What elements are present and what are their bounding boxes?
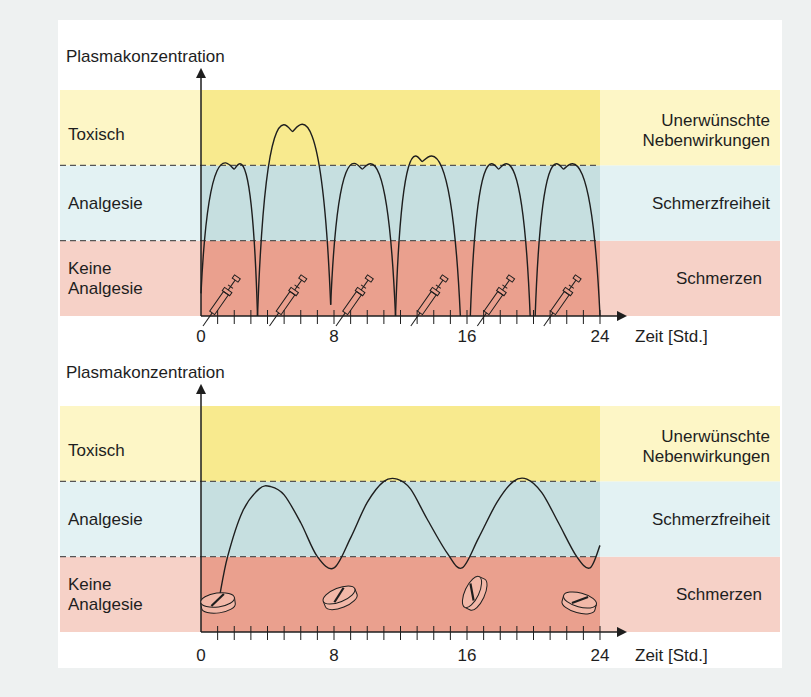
x-tick-label: 8 [329, 646, 338, 665]
zone-label-no-analgesia-1: Keine [68, 575, 111, 594]
x-tick-label: 0 [196, 646, 205, 665]
zone-label-side-effects-2: Nebenwirkungen [642, 131, 770, 150]
zone-label-toxic: Toxisch [68, 125, 125, 144]
zone-label-side-effects-2: Nebenwirkungen [642, 447, 770, 466]
x-tick-label: 0 [196, 327, 205, 346]
band-toxic-plot [201, 90, 600, 165]
zone-label-no-analgesia-2: Analgesie [68, 595, 143, 614]
zone-label-analgesia: Analgesie [68, 194, 143, 213]
panel-oral: ToxischAnalgesieKeineAnalgesieUnerwünsch… [60, 363, 780, 665]
band-toxic-plot [201, 406, 600, 481]
x-tick-label: 8 [329, 327, 338, 346]
zone-label-pain-free: Schmerzfreiheit [652, 194, 770, 213]
zone-label-no-analgesia-1: Keine [68, 259, 111, 278]
band-pain-plot [201, 557, 600, 632]
zone-label-no-analgesia-2: Analgesie [68, 279, 143, 298]
y-axis-label: Plasmakonzentration [66, 47, 225, 66]
figure-svg: ToxischAnalgesieKeineAnalgesieUnerwünsch… [0, 0, 811, 697]
zone-label-side-effects-1: Unerwünschte [661, 111, 770, 130]
y-axis-label: Plasmakonzentration [66, 363, 225, 382]
zone-label-pain-free: Schmerzfreiheit [652, 510, 770, 529]
zone-label-pain: Schmerzen [676, 269, 762, 288]
x-tick-label: 24 [591, 646, 610, 665]
x-tick-label: 16 [458, 646, 477, 665]
x-tick-label: 16 [458, 327, 477, 346]
zone-label-analgesia: Analgesie [68, 510, 143, 529]
x-axis-label: Zeit [Std.] [635, 327, 708, 346]
panel-injection: ToxischAnalgesieKeineAnalgesieUnerwünsch… [60, 47, 780, 346]
band-analgesia-plot [201, 481, 600, 556]
zone-label-side-effects-1: Unerwünschte [661, 427, 770, 446]
x-tick-label: 24 [591, 327, 610, 346]
zone-label-pain: Schmerzen [676, 585, 762, 604]
zone-label-toxic: Toxisch [68, 441, 125, 460]
x-axis-label: Zeit [Std.] [635, 646, 708, 665]
